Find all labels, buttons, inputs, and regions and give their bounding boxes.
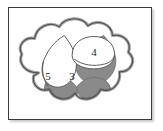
figure-root: 5 3 4 <box>0 0 163 131</box>
cloud-diagram-canvas <box>9 8 151 119</box>
region-label-3: 3 <box>69 71 75 82</box>
figure-frame: 5 3 4 <box>8 7 152 120</box>
region-label-4: 4 <box>91 47 97 58</box>
region-label-5: 5 <box>45 71 51 82</box>
